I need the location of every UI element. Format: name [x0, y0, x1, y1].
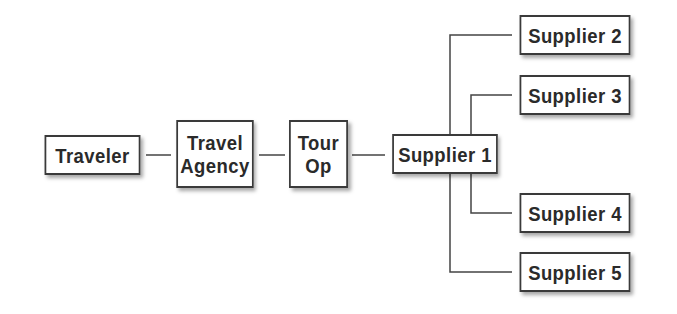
node-label: Traveler	[55, 144, 129, 167]
node-label: Supplier 3	[528, 84, 622, 107]
node-supplier-3: Supplier 3	[520, 75, 631, 115]
node-label-line2: Agency	[180, 154, 249, 177]
node-supplier-2: Supplier 2	[520, 15, 631, 55]
node-label: Supplier 2	[528, 24, 622, 47]
node-travel-agency: Travel Agency	[176, 120, 253, 188]
node-label: Supplier 4	[528, 202, 622, 225]
node-supplier-5: Supplier 5	[520, 252, 631, 292]
node-tour-op: Tour Op	[289, 120, 348, 188]
node-label-line1: Tour	[298, 131, 339, 154]
node-supplier-1: Supplier 1	[392, 134, 498, 174]
node-label: Supplier 1	[398, 143, 492, 166]
node-label-line1: Travel	[187, 131, 243, 154]
node-label: Supplier 5	[528, 261, 622, 284]
node-traveler: Traveler	[45, 135, 141, 175]
node-supplier-4: Supplier 4	[520, 193, 631, 233]
node-label-line2: Op	[305, 154, 332, 177]
